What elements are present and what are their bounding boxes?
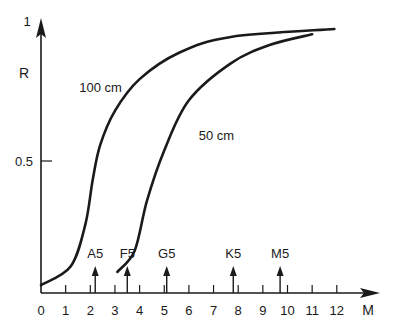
y-tick-label: 1 [23,14,30,29]
series-label: 50 cm [199,128,234,143]
x-tick-label: 3 [111,303,118,318]
x-tick-label: 4 [136,303,143,318]
chart: A5F5G5K5M5 01234567891011120.51MR100 cm5… [0,0,394,326]
series-line-100cm [41,29,334,285]
arrow-up-icon [124,266,131,276]
series-label: 100 cm [79,80,122,95]
arrow-up-icon [92,266,99,276]
annotation-label: A5 [87,246,103,261]
x-tick-label: 8 [235,303,242,318]
x-tick-label: 12 [330,303,344,318]
x-tick-label: 9 [259,303,266,318]
x-tick-label: 5 [161,303,168,318]
x-tick-label: 10 [280,303,294,318]
x-tick-label: 6 [185,303,192,318]
axis-labels: 01234567891011120.51MR100 cm50 cm [15,14,374,318]
arrow-up-icon [163,266,170,276]
x-tick-label: 11 [305,303,319,318]
annotation-label: M5 [271,246,289,261]
arrow-up-icon [277,266,284,276]
series-line-50cm [117,34,312,272]
arrow-up-icon [230,266,237,276]
x-axis-title: M [362,302,374,318]
x-tick-label: 1 [62,303,69,318]
annotation-label: G5 [158,246,175,261]
series-group [41,29,334,285]
annotation-label: F5 [120,246,135,261]
x-tick-label: 7 [210,303,217,318]
annotations-group: A5F5G5K5M5 [87,246,289,293]
x-tick-label: 2 [87,303,94,318]
y-axis-title: R [19,65,29,81]
annotation-label: K5 [225,246,241,261]
y-tick-label: 0.5 [15,154,33,169]
x-tick-label: 0 [37,303,44,318]
